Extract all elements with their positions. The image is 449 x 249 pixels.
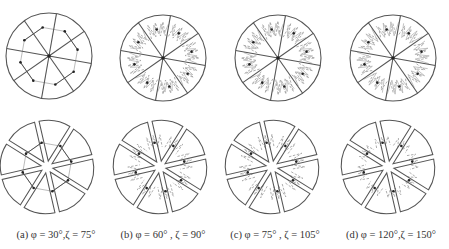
- hinge-dot: [51, 190, 54, 193]
- hinge-dot: [373, 187, 376, 190]
- hinge-dot: [164, 190, 167, 193]
- hinge-dot: [63, 30, 66, 33]
- hinge-dot: [292, 179, 295, 182]
- figure-canvas: [0, 0, 449, 249]
- hinge-dot: [381, 141, 384, 144]
- divider-line: [128, 58, 163, 83]
- divider-line: [163, 58, 188, 93]
- divider-line: [358, 58, 393, 83]
- divider-line: [351, 51, 393, 58]
- divider-line: [236, 51, 278, 58]
- hinge-dot: [362, 171, 365, 174]
- caption-b: (b) φ = 60° , ζ = 90°: [121, 229, 206, 240]
- sector-leaf: [39, 120, 70, 161]
- sector-leaf: [166, 159, 207, 190]
- hinge-dot: [172, 145, 175, 148]
- hinge-dot: [23, 39, 26, 42]
- hinge-dot: [363, 63, 366, 66]
- divider-line: [163, 58, 205, 65]
- hinge-dot: [40, 141, 43, 144]
- sector-leaf: [113, 144, 154, 175]
- hinge-dot: [59, 145, 62, 148]
- divider-line: [14, 56, 49, 81]
- divider-line: [163, 33, 198, 58]
- hinge-dot: [168, 85, 171, 88]
- sector-leaf: [278, 159, 319, 190]
- sector-leaf: [341, 144, 382, 175]
- divider-line: [49, 56, 74, 91]
- hinge-dot: [32, 187, 35, 190]
- divider-line: [278, 16, 285, 58]
- sector-leaf: [0, 144, 41, 175]
- hinge-dot: [25, 152, 28, 155]
- divider-line: [368, 23, 393, 58]
- hinge-dot: [32, 79, 35, 82]
- hinge-dot: [400, 145, 403, 148]
- hinge-dot: [137, 41, 140, 44]
- divider-line: [278, 58, 320, 65]
- hinge-dot: [153, 141, 156, 144]
- hinge-dot: [41, 26, 44, 29]
- hinge-dot: [145, 187, 148, 190]
- hinge-dot: [257, 187, 260, 190]
- sector-leaf: [394, 159, 435, 190]
- divider-line: [49, 31, 84, 56]
- hinge-dot: [138, 152, 141, 155]
- sector-leaf: [24, 173, 55, 214]
- hinge-dot: [416, 72, 419, 75]
- hinge-dot: [305, 50, 308, 53]
- sector-leaf: [152, 120, 183, 161]
- divider-line: [156, 58, 163, 100]
- caption-d: (d) φ = 120°,ζ = 150°: [346, 229, 436, 240]
- hinge-dot: [76, 48, 79, 51]
- octagon-path: [23, 143, 72, 192]
- hinge-dot: [367, 41, 370, 44]
- hinge-dot: [295, 160, 298, 163]
- hinge-dot: [133, 63, 136, 66]
- divider-line: [393, 33, 428, 58]
- hinge-dot: [155, 28, 158, 31]
- hinge-dot: [407, 32, 410, 35]
- sector-leaf: [365, 173, 396, 214]
- center-pivot: [276, 56, 280, 60]
- hinge-dot: [301, 72, 304, 75]
- sector-leaf: [53, 159, 94, 190]
- hinge-dot: [180, 179, 183, 182]
- hinge-dot: [177, 32, 180, 35]
- divider-line: [271, 58, 278, 100]
- divider-line: [393, 58, 418, 93]
- caption-c: (c) φ = 75° , ζ = 105°: [230, 229, 320, 240]
- hinge-dot: [146, 81, 149, 84]
- hinge-dot: [21, 171, 24, 174]
- divider-line: [7, 49, 49, 56]
- caption-a: (a) φ = 30°,ζ = 75°: [16, 229, 95, 240]
- hinge-dot: [134, 171, 137, 174]
- divider-line: [49, 56, 91, 63]
- hinge-dot: [276, 190, 279, 193]
- center-pivot: [47, 54, 51, 58]
- sector-leaf: [225, 144, 266, 175]
- hinge-dot: [261, 81, 264, 84]
- hinge-dot: [72, 70, 75, 73]
- hinge-dot: [19, 61, 22, 64]
- hinge-dot: [252, 41, 255, 44]
- hinge-dot: [190, 50, 193, 53]
- hinge-dot: [54, 83, 57, 86]
- center-pivot: [161, 56, 165, 60]
- divider-line: [393, 58, 435, 65]
- sector-leaf: [137, 173, 168, 214]
- hinge-dot: [186, 72, 189, 75]
- divider-line: [42, 56, 49, 98]
- divider-line: [386, 58, 393, 100]
- hinge-dot: [411, 160, 414, 163]
- hinge-dot: [420, 50, 423, 53]
- divider-line: [138, 23, 163, 58]
- hinge-dot: [70, 160, 73, 163]
- hinge-dot: [392, 190, 395, 193]
- divider-line: [24, 21, 49, 56]
- hinge-dot: [284, 145, 287, 148]
- hinge-dot: [248, 63, 251, 66]
- divider-line: [393, 16, 400, 58]
- hinge-dot: [366, 152, 369, 155]
- divider-line: [163, 16, 170, 58]
